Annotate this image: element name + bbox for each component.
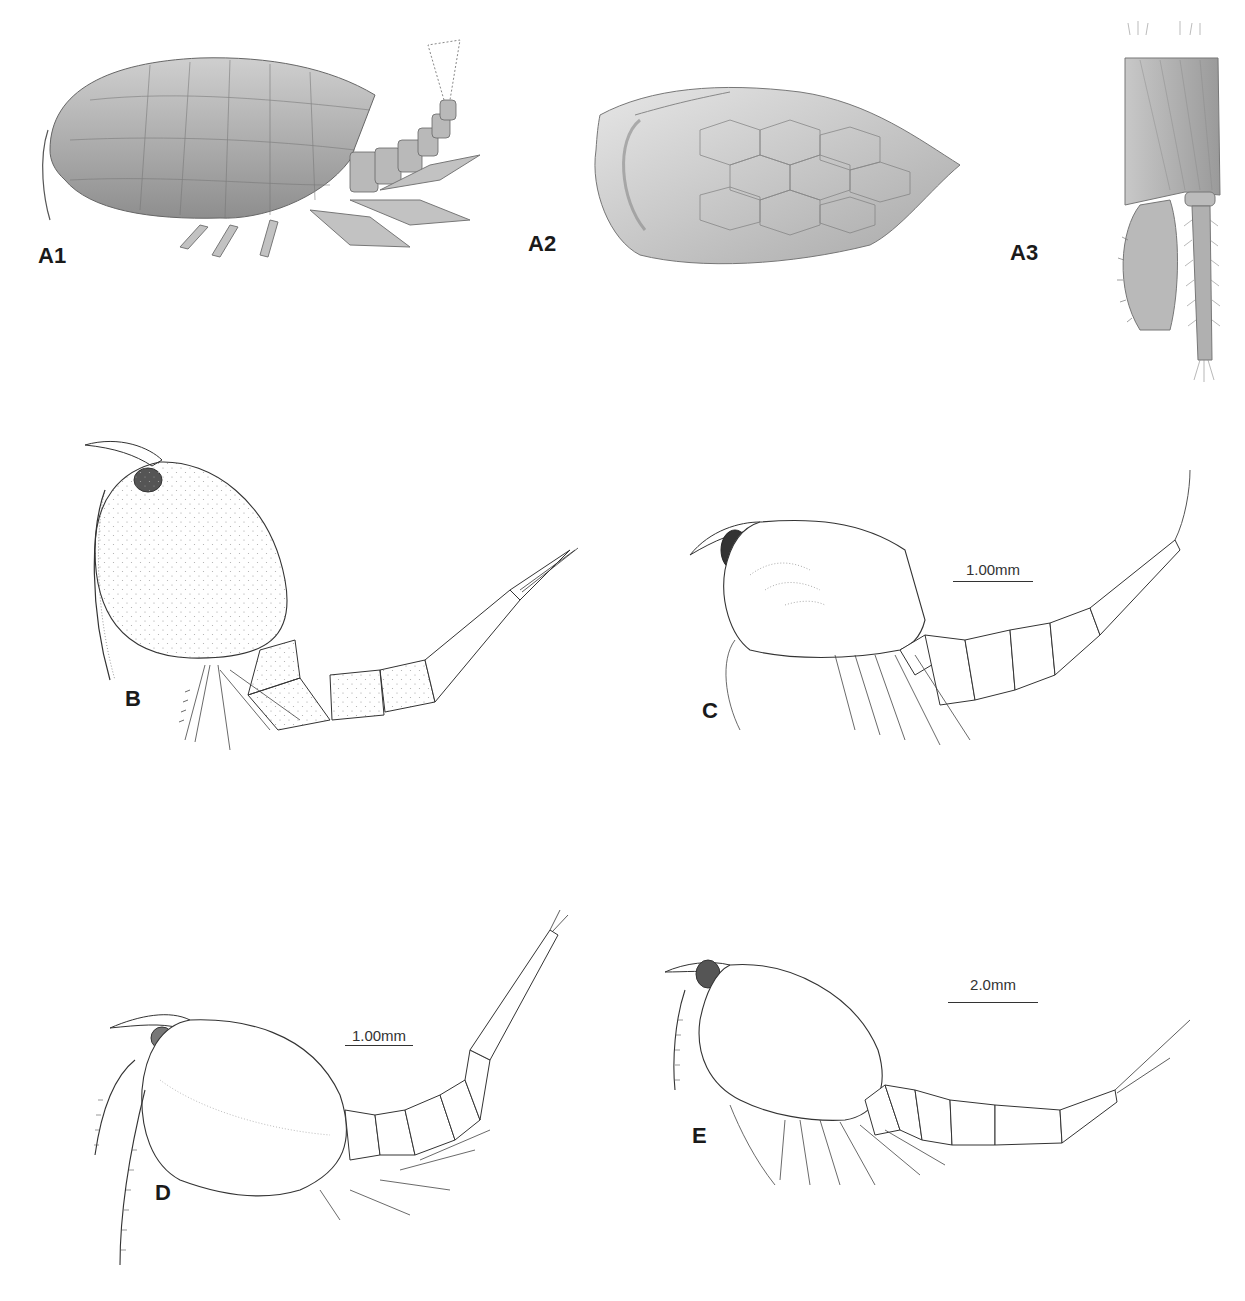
scale-bar-line-d	[345, 1045, 413, 1046]
carapace-valve-illustration-a2	[540, 80, 980, 270]
panel-label-c: C	[702, 700, 718, 722]
panel-a1: A1	[30, 40, 490, 270]
crustacean-line-drawing-d	[80, 910, 600, 1280]
panel-a3: A3	[1020, 0, 1240, 400]
panel-label-e: E	[692, 1125, 707, 1147]
panel-a2: A2	[540, 80, 980, 270]
panel-c: C 1.00mm	[680, 460, 1200, 770]
panel-label-b: B	[125, 688, 141, 710]
scale-bar-c: 1.00mm	[953, 562, 1033, 582]
panel-label-a2: A2	[528, 233, 556, 255]
crustacean-line-drawing-c	[680, 460, 1200, 770]
scale-bar-label-e: 2.0mm	[948, 977, 1038, 992]
panel-d: D 1.00mm	[80, 910, 600, 1280]
appendage-illustration-a3	[1020, 0, 1240, 400]
crustacean-line-drawing-b	[80, 430, 590, 760]
scale-bar-d: 1.00mm	[345, 1028, 413, 1046]
crustacean-line-drawing-e	[660, 960, 1200, 1190]
scale-bar-label-d: 1.00mm	[345, 1028, 413, 1043]
panel-label-a3: A3	[1010, 242, 1038, 264]
crustacean-shaded-illustration-a1	[30, 40, 490, 270]
scale-bar-label-c: 1.00mm	[953, 562, 1033, 577]
panel-label-a1: A1	[38, 245, 66, 267]
panel-b: B	[80, 430, 590, 760]
scale-bar-line-e	[948, 1002, 1038, 1003]
panel-e: E 2.0mm	[660, 960, 1200, 1190]
scale-bar-line-c	[953, 581, 1033, 582]
scale-bar-e: 2.0mm	[948, 977, 1038, 1003]
panel-label-d: D	[155, 1182, 171, 1204]
